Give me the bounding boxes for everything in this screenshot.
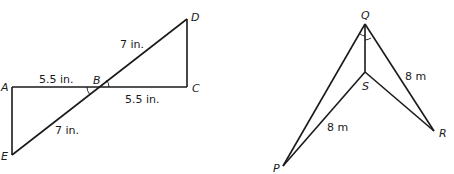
point-R: R (439, 127, 447, 140)
left-figure: A B C D E 5.5 in. 5.5 in. 7 in. 7 in. (0, 11, 200, 163)
point-E: E (1, 150, 8, 163)
angle-mark-CBD (107, 80, 110, 87)
point-Q: Q (361, 9, 370, 22)
point-B: B (93, 74, 101, 87)
label-QR: 8 m (405, 70, 426, 83)
segment-QP (283, 24, 365, 166)
angle-mark-ABE (87, 87, 90, 94)
segment-SP (283, 72, 365, 166)
point-P: P (273, 162, 280, 174)
right-figure: Q S R P 8 m 8 m (273, 9, 447, 174)
point-S: S (362, 80, 369, 93)
label-AB: 5.5 in. (39, 73, 74, 86)
label-BD: 7 in. (120, 38, 144, 51)
point-C: C (192, 82, 200, 95)
label-BC: 5.5 in. (125, 93, 160, 106)
geometry-diagram: A B C D E 5.5 in. 5.5 in. 7 in. 7 in. Q … (0, 0, 454, 174)
point-D: D (191, 11, 199, 24)
label-BE: 7 in. (55, 124, 79, 137)
label-SP: 8 m (327, 121, 348, 134)
point-A: A (0, 81, 9, 94)
angle-mark-SQR (365, 38, 371, 40)
